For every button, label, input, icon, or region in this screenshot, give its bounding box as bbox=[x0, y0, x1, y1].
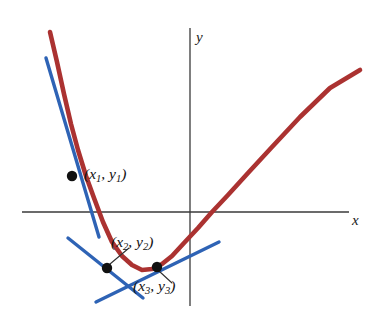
y-axis-label: y bbox=[196, 30, 203, 45]
point-label-1-prefix: (x bbox=[84, 165, 96, 182]
point-label-3-mid: , y bbox=[150, 277, 165, 294]
point-label-1: (x1, y1) bbox=[84, 166, 126, 182]
plot-svg bbox=[0, 0, 383, 321]
point-label-1-sub1: 1 bbox=[96, 173, 101, 184]
figure-canvas: (x1, y1) (x2, y2) (x3, y3) y x bbox=[0, 0, 383, 321]
point-label-2-sub2: 2 bbox=[143, 241, 148, 252]
tangent-line-1 bbox=[46, 58, 99, 237]
point-label-2-sub1: 2 bbox=[123, 241, 128, 252]
data-points-group bbox=[67, 171, 162, 273]
data-point-2 bbox=[102, 263, 112, 273]
point-label-3: (x3, y3) bbox=[133, 278, 175, 294]
point-label-2-prefix: (x bbox=[111, 233, 123, 250]
point-label-3-sub1: 3 bbox=[145, 285, 150, 296]
point-label-2-mid: , y bbox=[128, 233, 143, 250]
point-label-2: (x2, y2) bbox=[111, 234, 153, 250]
point-label-3-sub2: 3 bbox=[165, 285, 170, 296]
data-point-3 bbox=[152, 262, 162, 272]
point-label-1-suffix: ) bbox=[121, 165, 126, 182]
point-label-3-suffix: ) bbox=[170, 277, 175, 294]
data-point-1 bbox=[67, 171, 77, 181]
point-label-3-prefix: (x bbox=[133, 277, 145, 294]
point-label-2-suffix: ) bbox=[148, 233, 153, 250]
axes-group bbox=[22, 28, 349, 306]
point-label-1-sub2: 1 bbox=[116, 173, 121, 184]
x-axis-label: x bbox=[352, 213, 359, 228]
point-label-1-mid: , y bbox=[101, 165, 116, 182]
